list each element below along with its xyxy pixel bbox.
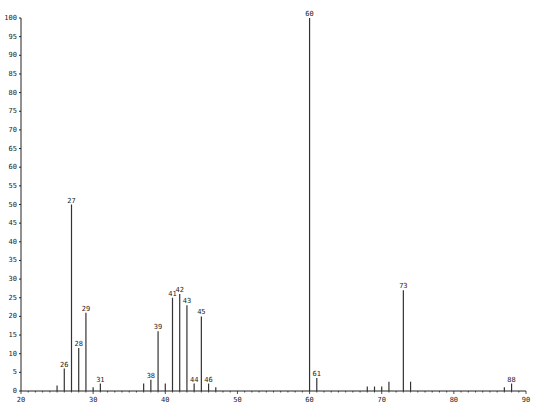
peak-label: 60: [305, 10, 313, 18]
y-tick-label: 30: [9, 275, 17, 283]
peak-label: 88: [507, 376, 515, 384]
x-tick-label: 50: [233, 396, 241, 404]
y-tick-label: 20: [9, 312, 17, 320]
y-tick-label: 60: [9, 163, 17, 171]
x-tick-label: 90: [522, 396, 530, 404]
peak-label: 29: [82, 305, 90, 313]
peak-label: 28: [74, 340, 82, 348]
peak-label: 43: [183, 297, 191, 305]
peak-label: 46: [204, 376, 212, 384]
x-tick-label: 20: [17, 396, 25, 404]
peak-label: 27: [67, 197, 75, 205]
peak-label: 39: [154, 323, 162, 331]
y-tick-label: 80: [9, 89, 17, 97]
y-tick-label: 70: [9, 126, 17, 134]
y-tick-label: 65: [9, 145, 17, 153]
y-tick-label: 75: [9, 107, 17, 115]
y-tick-label: 5: [13, 368, 17, 376]
y-tick-label: 40: [9, 238, 17, 246]
peak-label: 42: [175, 286, 183, 294]
y-tick-label: 100: [4, 14, 17, 22]
peak-label: 44: [190, 376, 198, 384]
peak-label: 38: [147, 372, 155, 380]
y-tick-label: 25: [9, 294, 17, 302]
y-tick-label: 0: [13, 387, 17, 395]
y-tick-label: 85: [9, 70, 17, 78]
y-tick-label: 10: [9, 350, 17, 358]
x-axis-ticks: 2030405060708090: [17, 391, 530, 404]
y-tick-label: 55: [9, 182, 17, 190]
mass-spectrum-chart: 0510152025303540455055606570758085909510…: [0, 0, 543, 415]
peak-label: 31: [96, 376, 104, 384]
y-tick-label: 90: [9, 51, 17, 59]
axes: [21, 18, 526, 391]
y-tick-label: 50: [9, 201, 17, 209]
y-tick-label: 15: [9, 331, 17, 339]
peak-label: 26: [60, 361, 68, 369]
y-tick-label: 45: [9, 219, 17, 227]
y-tick-label: 35: [9, 256, 17, 264]
peak-label: 73: [399, 282, 407, 290]
x-tick-label: 40: [161, 396, 169, 404]
peaks: 2627282931383941424344454660617388: [57, 10, 516, 391]
y-axis-ticks: 0510152025303540455055606570758085909510…: [4, 14, 21, 395]
x-tick-label: 80: [450, 396, 458, 404]
peak-label: 45: [197, 308, 205, 316]
x-tick-label: 60: [305, 396, 313, 404]
y-tick-label: 95: [9, 33, 17, 41]
x-tick-label: 70: [377, 396, 385, 404]
peak-label: 61: [313, 370, 321, 378]
x-tick-label: 30: [89, 396, 97, 404]
